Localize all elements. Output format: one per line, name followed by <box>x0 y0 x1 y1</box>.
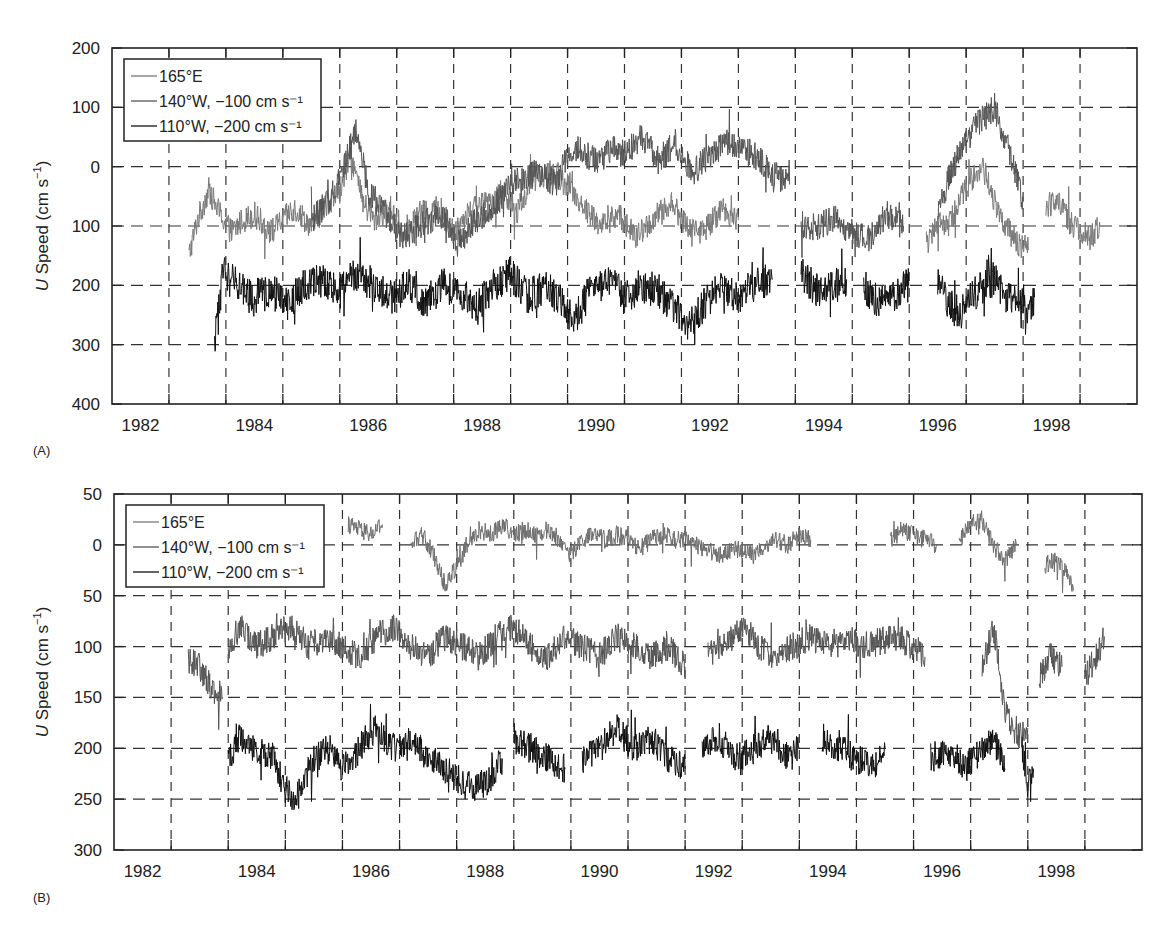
x-tick-label: 1988 <box>466 862 504 881</box>
y-tick-label: 100 <box>72 98 100 117</box>
y-tick-label: 200 <box>74 739 102 758</box>
chart-panel-a: 1982198419861988199019921994199619982001… <box>0 0 1174 470</box>
y-tick-label: 300 <box>72 336 100 355</box>
legend: 165°E140°W, −100 cm s⁻¹110°W, −200 cm s⁻… <box>126 505 324 587</box>
y-tick-label: 400 <box>72 395 100 414</box>
legend-label: 165°E <box>159 68 203 85</box>
x-tick-label: 1992 <box>695 862 733 881</box>
x-tick-label: 1986 <box>352 862 390 881</box>
legend-label: 110°W, −200 cm s⁻¹ <box>161 564 304 581</box>
x-tick-label: 1994 <box>805 416 843 435</box>
series-line-2 <box>228 704 1033 810</box>
y-tick-label: 50 <box>83 587 102 606</box>
legend-label: 140°W, −100 cm s⁻¹ <box>159 93 303 110</box>
legend: 165°E140°W, −100 cm s⁻¹110°W, −200 cm s⁻… <box>124 59 321 141</box>
x-tick-label: 1984 <box>238 862 276 881</box>
x-tick-label: 1988 <box>463 416 501 435</box>
y-tick-label: 0 <box>93 536 102 555</box>
x-tick-label: 1990 <box>577 416 615 435</box>
x-tick-label: 1996 <box>923 862 961 881</box>
x-tick-label: 1982 <box>124 862 162 881</box>
series-line-1 <box>188 613 1105 748</box>
legend-label: 140°W, −100 cm s⁻¹ <box>161 539 305 556</box>
x-tick-label: 1996 <box>919 416 957 435</box>
series-line-1 <box>311 93 1023 257</box>
legend-label: 110°W, −200 cm s⁻¹ <box>159 118 302 135</box>
x-tick-label: 1998 <box>1037 862 1075 881</box>
y-tick-label: 200 <box>72 39 100 58</box>
x-tick-label: 1998 <box>1033 416 1071 435</box>
y-axis-label: U Speed (cm s−1) <box>31 607 52 738</box>
y-tick-label: 0 <box>91 158 100 177</box>
x-tick-label: 1982 <box>122 416 160 435</box>
y-tick-label: 300 <box>74 841 102 860</box>
panel-label-a: (A) <box>33 443 50 458</box>
chart-b-canvas: 1982198419861988199019921994199619985005… <box>0 470 1174 939</box>
x-tick-label: 1984 <box>235 416 273 435</box>
series-line-2 <box>215 237 1035 351</box>
y-axis-label: U Speed (cm s−1) <box>31 161 52 292</box>
x-tick-label: 1990 <box>581 862 619 881</box>
x-tick-label: 1992 <box>691 416 729 435</box>
y-tick-label: 100 <box>72 217 100 236</box>
x-tick-label: 1986 <box>349 416 387 435</box>
y-tick-label: 100 <box>74 638 102 657</box>
chart-panel-b: 1982198419861988199019921994199619985005… <box>0 470 1174 939</box>
series-group <box>189 93 1100 351</box>
y-tick-label: 250 <box>74 790 102 809</box>
chart-a-canvas: 1982198419861988199019921994199619982001… <box>0 0 1174 470</box>
panel-label-b: (B) <box>33 890 50 905</box>
y-tick-label: 150 <box>74 688 102 707</box>
legend-label: 165°E <box>161 514 205 531</box>
y-tick-label: 50 <box>83 485 102 504</box>
x-tick-label: 1994 <box>809 862 847 881</box>
series-group <box>188 511 1105 810</box>
y-tick-label: 200 <box>72 276 100 295</box>
